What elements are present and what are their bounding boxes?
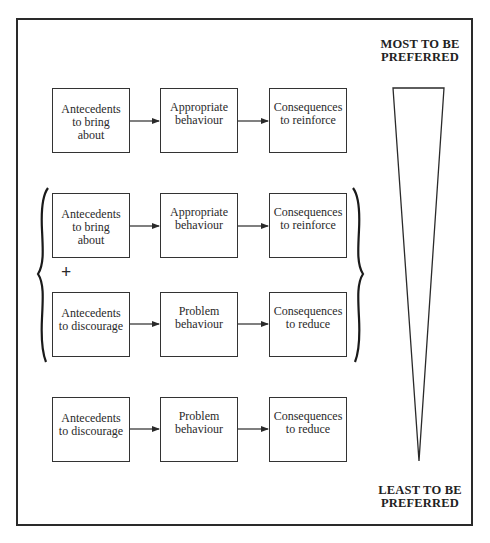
preference-wedge-icon [393,88,444,461]
arrow-group [130,121,268,429]
right-brace-icon [353,188,363,362]
diagram-connectors [0,0,490,543]
left-brace-icon [38,188,48,362]
